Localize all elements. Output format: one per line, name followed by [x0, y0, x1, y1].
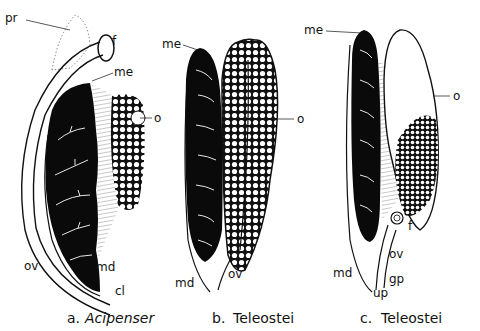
label-o-b: o [297, 112, 304, 126]
oviduct-c [376, 225, 388, 290]
label-pr: pr [5, 11, 18, 25]
label-o-c: o [453, 89, 460, 103]
label-o-a: o [154, 111, 161, 125]
panel-b-teleostei: me o md ov b. Teleostei [162, 37, 304, 326]
caption-a-taxon: Acipenser [84, 310, 155, 326]
label-ov-c: ov [389, 247, 403, 261]
panel-a-acipenser: pr f me o ov md cl a. Acipenser [5, 11, 161, 326]
figure-canvas: pr f me o ov md cl a. Acipenser me o md … [0, 0, 480, 331]
caption-b-letter: b. [212, 310, 225, 326]
panel-c-teleostei: me o f ov md gp up c. Teleostei [304, 23, 460, 326]
label-me-c: me [304, 23, 323, 37]
label-cl-a: cl [115, 284, 125, 298]
caption-b-taxon: Teleostei [232, 310, 294, 326]
label-me-a: me [114, 65, 133, 79]
caption-c-taxon: Teleostei [380, 310, 442, 326]
caption-c-letter: c. [360, 310, 372, 326]
mesonephros-b [185, 48, 222, 262]
label-md-a: md [96, 260, 115, 274]
caption-a-letter: a. [67, 310, 80, 326]
mesonephros-a [46, 83, 100, 292]
funnel-c [391, 212, 403, 224]
label-ov-b: ov [228, 267, 242, 281]
mesonephros-c [351, 30, 380, 242]
ovary-b [222, 39, 278, 271]
label-md-c: md [333, 266, 352, 280]
label-ov-a: ov [24, 259, 38, 273]
label-md-b: md [175, 276, 194, 290]
label-up-c: up [373, 286, 388, 300]
label-gp-c: gp [389, 272, 404, 286]
pronephros-outline [52, 15, 90, 70]
label-me-b: me [162, 37, 181, 51]
label-f-a: f [112, 34, 117, 48]
